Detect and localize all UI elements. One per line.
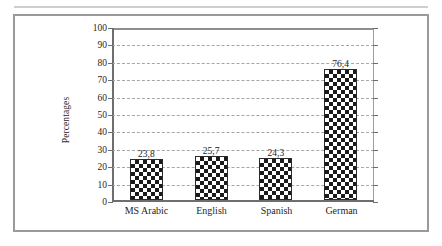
figure-frame: Percentages 1009080706050403020100 23,82… [13, 14, 429, 232]
y-tick-mark-right [373, 202, 378, 203]
bar[interactable]: 25,7 [195, 156, 228, 200]
bar[interactable]: 23,8 [130, 159, 163, 200]
figure-page: Percentages 1009080706050403020100 23,82… [0, 0, 442, 246]
y-tick-mark-right [373, 98, 378, 99]
y-tick-mark [108, 167, 113, 168]
y-tick-mark [108, 132, 113, 133]
y-tick-mark [108, 185, 113, 186]
x-category-label: German [309, 205, 374, 216]
bar-slot: 24,3 [244, 28, 309, 200]
y-tick-mark [108, 115, 113, 116]
bar[interactable]: 24,3 [259, 158, 292, 200]
y-tick-mark [108, 45, 113, 46]
bar-value-label: 24,3 [268, 148, 285, 158]
y-tick-mark [108, 80, 113, 81]
y-tick-label: 50 [98, 110, 108, 120]
y-tick-mark [108, 28, 113, 29]
y-tick-mark-right [373, 185, 378, 186]
y-tick-mark-right [373, 115, 378, 116]
y-axis-title: Percentages [59, 72, 73, 168]
bar-value-label: 25,7 [203, 146, 220, 156]
y-tick-mark [108, 202, 113, 203]
bar[interactable]: 76,4 [324, 69, 357, 200]
x-axis-spine [112, 200, 374, 202]
y-tick-label: 40 [98, 127, 108, 137]
y-tick-label: 20 [98, 162, 108, 172]
y-tick-mark [108, 98, 113, 99]
y-tick-mark-right [373, 167, 378, 168]
y-axis-title-label: Percentages [61, 97, 71, 143]
y-tick-label: 10 [98, 180, 108, 190]
y-tick-mark [108, 63, 113, 64]
y-tick-label: 30 [98, 145, 108, 155]
bar-value-label: 76,4 [332, 59, 349, 69]
x-category-label: MS Arabic [114, 205, 179, 216]
y-tick-label: 100 [93, 23, 107, 33]
bar-slot: 76,4 [308, 28, 373, 200]
bar-series: 23,825,724,376,4 [114, 28, 373, 200]
x-axis-category-labels: MS ArabicEnglishSpanishGerman [114, 205, 374, 216]
y-tick-mark-right [373, 63, 378, 64]
bar-slot: 25,7 [179, 28, 244, 200]
y-tick-mark-right [373, 28, 378, 29]
bar-value-label: 23,8 [138, 149, 155, 159]
x-category-label: English [179, 205, 244, 216]
y-tick-label: 90 [98, 40, 108, 50]
y-tick-mark-right [373, 80, 378, 81]
y-tick-label: 0 [102, 197, 107, 207]
plot-area: 1009080706050403020100 23,825,724,376,4 [112, 28, 374, 202]
page-top-rule [14, 6, 428, 8]
y-tick-mark-right [373, 45, 378, 46]
y-tick-mark-right [373, 132, 378, 133]
y-tick-mark-right [373, 150, 378, 151]
y-tick-mark [108, 150, 113, 151]
y-tick-label: 70 [98, 75, 108, 85]
y-tick-label: 60 [98, 93, 108, 103]
x-category-label: Spanish [244, 205, 309, 216]
bar-slot: 23,8 [114, 28, 179, 200]
y-tick-label: 80 [98, 58, 108, 68]
bar-chart: Percentages 1009080706050403020100 23,82… [15, 16, 427, 230]
